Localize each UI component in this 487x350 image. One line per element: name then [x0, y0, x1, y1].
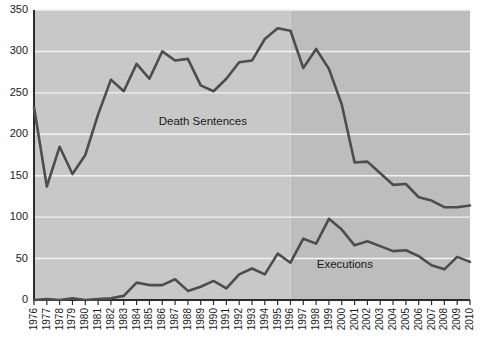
- x-axis-tick-label: 1997: [298, 308, 308, 330]
- x-axis-tick-label: 2010: [465, 308, 475, 330]
- x-axis-tick-label: 1992: [234, 308, 244, 330]
- x-axis-tick-label: 2008: [439, 308, 449, 330]
- x-axis-tick-label: 1996: [285, 308, 295, 330]
- x-axis-tick-label: 1983: [119, 308, 129, 330]
- y-axis-tick-label: 150: [2, 170, 28, 181]
- x-axis-tick-label: 2002: [362, 308, 372, 330]
- x-axis-tick-label: 2001: [350, 308, 360, 330]
- x-axis-tick-label: 2005: [401, 308, 411, 330]
- plot-bg-right-region: [290, 10, 470, 300]
- x-axis-tick-label: 1998: [311, 308, 321, 330]
- series-annotation-executions: Executions: [317, 258, 373, 270]
- x-axis-tick-label: 1977: [42, 308, 52, 330]
- y-axis-tick-label: 250: [2, 87, 28, 98]
- x-axis-tick-label: 2007: [427, 308, 437, 330]
- y-axis-tick-label: 200: [2, 128, 28, 139]
- x-axis-tick-label: 1986: [157, 308, 167, 330]
- x-axis-tick-label: 1978: [55, 308, 65, 330]
- x-axis-tick-label: 1999: [324, 308, 334, 330]
- x-axis-tick-label: 1989: [196, 308, 206, 330]
- x-axis-tick-label: 1982: [106, 308, 116, 330]
- x-axis-tick-label: 1991: [221, 308, 231, 330]
- x-axis-tick-label: 1979: [67, 308, 77, 330]
- x-axis-tick-label: 1990: [209, 308, 219, 330]
- x-axis-tick-label: 1976: [29, 308, 39, 330]
- x-axis-tick-label: 1984: [132, 308, 142, 330]
- y-axis-tick-label: 100: [2, 211, 28, 222]
- x-axis-tick-label: 2004: [388, 308, 398, 330]
- y-axis-tick-label: 350: [2, 4, 28, 15]
- chart-container: 350300250200150100500 197619771978197919…: [0, 0, 487, 350]
- plot-background: [34, 10, 470, 300]
- y-axis-tick-label: 0: [2, 294, 28, 305]
- x-axis-tick-label: 1993: [247, 308, 257, 330]
- series-annotation-death-sentences: Death Sentences: [159, 115, 247, 127]
- x-axis-tick-label: 2009: [452, 308, 462, 330]
- x-axis-tick-label: 1994: [260, 308, 270, 330]
- x-axis-tick-label: 1985: [144, 308, 154, 330]
- x-axis-tick-label: 1980: [80, 308, 90, 330]
- y-axis-tick-label: 300: [2, 45, 28, 56]
- x-axis-tick-label: 2003: [375, 308, 385, 330]
- y-axis-tick-label: 50: [2, 253, 28, 264]
- x-axis-tick-label: 1988: [183, 308, 193, 330]
- x-axis-tick-label: 1987: [170, 308, 180, 330]
- x-axis-tick-label: 2000: [337, 308, 347, 330]
- x-axis-tick-label: 2006: [414, 308, 424, 330]
- x-axis-tick-label: 1981: [93, 308, 103, 330]
- x-axis-tick-label: 1995: [273, 308, 283, 330]
- line-chart-plot: [0, 0, 487, 350]
